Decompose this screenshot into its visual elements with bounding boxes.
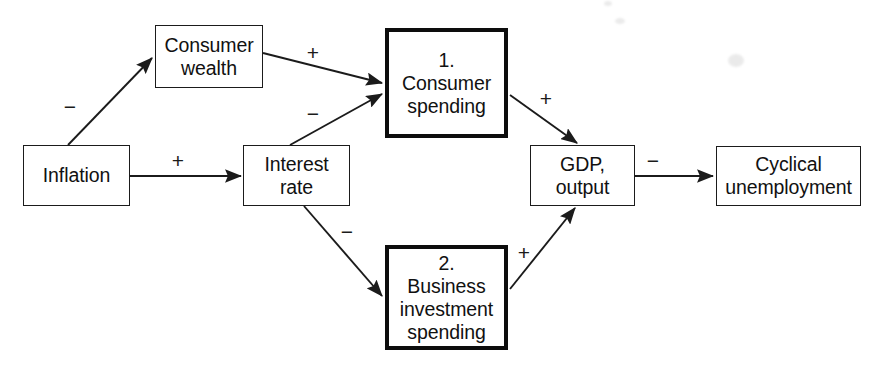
node-label: output <box>556 176 610 199</box>
scan-artifact <box>615 18 625 24</box>
edge-sign-interest-rate-business-investment: − <box>341 221 353 242</box>
edge-sign-business-investment-gdp: + <box>518 242 530 263</box>
node-label: rate <box>280 176 313 199</box>
node-label: GDP, <box>560 153 605 176</box>
node-label: Business <box>407 275 485 298</box>
edge-sign-consumer-wealth-consumer-spending: + <box>307 42 319 63</box>
node-index: 1. <box>438 49 454 72</box>
scan-artifact <box>728 54 744 67</box>
edge-sign-consumer-spending-gdp: + <box>540 88 552 109</box>
node-label: unemployment <box>725 176 852 199</box>
node-cyclical-unemployment[interactable]: Cyclical unemployment <box>716 146 861 206</box>
flow-diagram: Inflation Consumer wealth Interest rate … <box>0 0 883 375</box>
node-index: 2. <box>438 252 454 275</box>
node-consumer-spending[interactable]: 1. Consumer spending <box>385 28 508 138</box>
node-label: Inflation <box>43 164 110 187</box>
node-business-investment-spending[interactable]: 2. Business investment spending <box>385 245 508 350</box>
node-label: Consumer <box>164 34 253 57</box>
node-inflation[interactable]: Inflation <box>23 145 130 206</box>
edge-sign-interest-rate-consumer-spending: − <box>307 103 319 124</box>
node-consumer-wealth[interactable]: Consumer wealth <box>155 25 263 88</box>
node-label: Interest <box>264 153 328 176</box>
node-label: Cyclical <box>755 153 821 176</box>
edge-inflation-to-consumer-wealth <box>68 58 152 145</box>
node-label: wealth <box>181 57 237 80</box>
edge-interest-rate-to-consumer-spending <box>290 94 382 145</box>
edge-sign-inflation-interest-rate: + <box>172 150 184 171</box>
edge-sign-inflation-consumer-wealth: − <box>64 96 76 117</box>
node-interest-rate[interactable]: Interest rate <box>243 145 350 206</box>
node-label: spending <box>407 321 485 344</box>
scan-artifact <box>604 1 612 6</box>
edge-sign-gdp-cyclical-unemployment: − <box>647 150 659 171</box>
edge-consumer-wealth-to-consumer-spending <box>263 53 382 83</box>
node-label: Consumer <box>402 72 491 95</box>
node-label: investment <box>400 298 493 321</box>
node-label: spending <box>407 95 485 118</box>
node-gdp-output[interactable]: GDP, output <box>530 145 635 206</box>
